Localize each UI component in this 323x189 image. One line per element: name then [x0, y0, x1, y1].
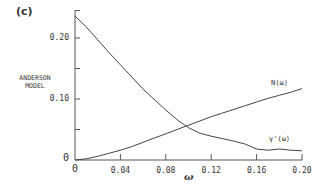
- y-tick-label: 0.10: [0, 94, 69, 103]
- y-tick-label: 0: [0, 153, 69, 162]
- gamma-prime-omega-annotation: γ'(ω): [269, 135, 290, 144]
- gamma-prime-omega-line: [75, 16, 302, 151]
- n-omega-annotation: N(ω): [271, 79, 288, 88]
- x-tick-label: 0.20: [287, 166, 317, 175]
- x-tick-label: 0.04: [105, 166, 135, 175]
- x-tick-label: 0.08: [151, 166, 181, 175]
- x-tick-label: 0.16: [242, 166, 272, 175]
- x-tick-label: 0: [60, 164, 90, 173]
- y-tick-label: 0.20: [0, 33, 69, 42]
- n-omega-line: [75, 89, 302, 160]
- x-tick-label: 0.12: [196, 166, 226, 175]
- x-axis-label: ω: [184, 172, 194, 181]
- series-lines: [75, 16, 302, 160]
- axes: [75, 11, 302, 160]
